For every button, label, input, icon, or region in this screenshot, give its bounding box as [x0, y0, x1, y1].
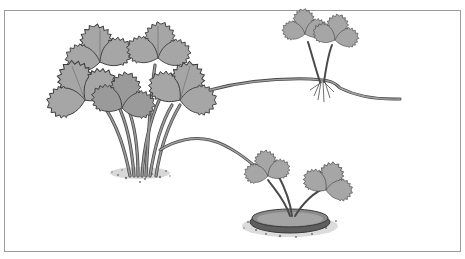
mother-plant	[30, 18, 230, 183]
plant-pot	[250, 209, 330, 233]
illustration-canvas	[0, 0, 465, 259]
strawberry-runner-illustration	[0, 0, 465, 259]
soil-patch	[110, 167, 171, 183]
runner-rooted-plantlet	[210, 7, 400, 102]
mother-leaves	[30, 18, 230, 131]
potted-plantlet-leaves	[238, 146, 363, 210]
plantlet-roots	[310, 82, 334, 102]
runner-potted-plantlet	[160, 138, 363, 238]
rooted-plantlet-leaves	[278, 7, 365, 54]
